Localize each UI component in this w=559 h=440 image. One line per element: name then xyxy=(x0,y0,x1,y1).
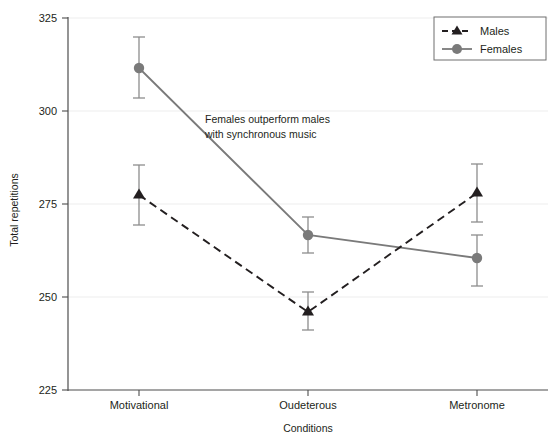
males-point-motivational xyxy=(133,189,145,199)
legend-females-label: Females xyxy=(480,43,523,55)
legend-males-label: Males xyxy=(480,25,510,37)
y-tick-label-325: 325 xyxy=(39,12,57,24)
x-tick-label-metronome: Metronome xyxy=(449,399,505,411)
series-females xyxy=(133,37,483,286)
x-axis-title: Conditions xyxy=(283,422,333,434)
females-outperform-annotation: Females outperform males with synchronou… xyxy=(204,113,330,140)
y-tick-labels: 325 300 275 250 225 xyxy=(39,12,57,396)
females-point-motivational xyxy=(134,63,144,73)
legend-females-circle-icon xyxy=(452,44,462,54)
y-tick-label-275: 275 xyxy=(39,198,57,210)
y-tick-marks xyxy=(62,18,68,390)
annotation-line-2: with synchronous music xyxy=(204,128,316,140)
annotation-line-1: Females outperform males xyxy=(205,113,330,125)
females-point-metronome xyxy=(472,253,482,263)
x-tick-marks xyxy=(139,390,477,396)
x-tick-label-oudeterous: Oudeterous xyxy=(279,399,337,411)
x-tick-labels: Motivational Oudeterous Metronome xyxy=(110,399,505,411)
y-tick-label-250: 250 xyxy=(39,291,57,303)
males-point-metronome xyxy=(471,187,483,197)
chart-container: 325 300 275 250 225 Motivational Oudeter… xyxy=(0,0,559,440)
x-tick-label-motivational: Motivational xyxy=(110,399,169,411)
chart-legend[interactable]: Males Females xyxy=(434,17,546,60)
y-tick-label-300: 300 xyxy=(39,105,57,117)
females-point-oudeterous xyxy=(303,230,313,240)
y-tick-label-225: 225 xyxy=(39,384,57,396)
line-chart-plot: 325 300 275 250 225 Motivational Oudeter… xyxy=(0,0,559,440)
males-point-oudeterous xyxy=(302,306,314,316)
y-axis-title: Total repetitions xyxy=(8,173,20,247)
